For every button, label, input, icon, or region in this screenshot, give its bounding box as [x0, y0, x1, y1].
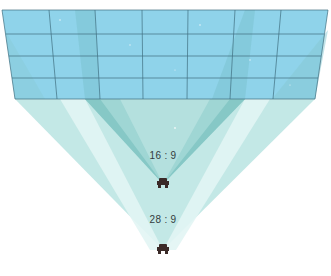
ratio-label-28-9: 28 : 9: [150, 214, 177, 225]
projection-diagram: 16 : 9 28 : 9: [0, 0, 331, 276]
diagram-canvas: [0, 0, 331, 276]
projection-screen: [2, 10, 328, 99]
ratio-label-16-9: 16 : 9: [150, 150, 177, 161]
